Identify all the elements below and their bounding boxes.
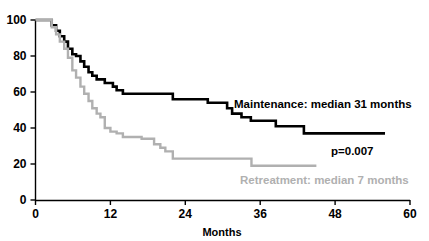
x-tick-label: 60 [403,207,417,221]
y-axis-ticks: 020406080100 [6,13,35,207]
y-tick-label: 0 [20,193,27,207]
x-tick-label: 36 [254,207,268,221]
y-tick-label: 100 [6,13,26,27]
series-layer [36,20,386,166]
x-tick-label: 24 [179,207,193,221]
x-axis-title: Months [202,226,241,238]
x-tick-label: 12 [104,207,118,221]
y-tick-label: 80 [13,49,27,63]
retreatment-label: Retreatment: median 7 months [240,174,409,186]
survival-curve-figure: 020406080100 01224364860 Months Maintena… [0,0,429,241]
series-line-retreatment [36,20,317,166]
x-tick-label: 48 [328,207,342,221]
maintenance-label: Maintenance: median 31 months [234,98,412,110]
annotation-layer: Maintenance: median 31 monthsp=0.007Retr… [234,98,412,186]
pvalue-label: p=0.007 [331,145,374,157]
series-line-maintenance [36,20,386,133]
y-tick-label: 60 [13,85,27,99]
x-tick-label: 0 [32,207,39,221]
x-axis-ticks: 01224364860 [32,200,417,221]
y-tick-label: 40 [13,121,27,135]
y-tick-label: 20 [13,157,27,171]
kaplan-meier-plot: 020406080100 01224364860 Months Maintena… [0,0,429,241]
